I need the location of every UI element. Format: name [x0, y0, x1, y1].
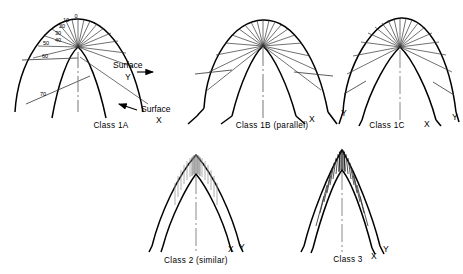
caption-class-3: Class 3 — [333, 255, 363, 264]
limb-inner-left-1c — [359, 120, 362, 126]
fold-classification-figure: 0 10 20 30 40 50 60 70 Surface Y Surface… — [0, 0, 463, 274]
label-x-3: X — [371, 251, 377, 261]
isogon-label-40: 40 — [55, 37, 61, 43]
panel-class-3: X Y Class 3 — [301, 150, 389, 264]
label-y-3: Y — [383, 244, 389, 254]
isogon-label-70: 70 — [40, 91, 46, 97]
inner-surface-curve-1c — [362, 47, 436, 120]
limb-inner-left-1b — [221, 116, 232, 124]
isogon-label-0: 0 — [74, 13, 77, 19]
panel-class-1b: X Y Class 1B (parallel) — [188, 20, 347, 130]
surface-y-label: Surface — [113, 60, 143, 70]
label-y-1c: Y — [452, 112, 458, 122]
isogon-label-60: 60 — [42, 53, 48, 59]
isogon-label-20: 20 — [59, 23, 65, 29]
limb-inner-left-2 — [161, 246, 163, 252]
panel-class-1a: 0 10 20 30 40 50 60 70 Surface Y Surface… — [15, 13, 171, 130]
panel-class-2: X Y Class 2 (similar) — [149, 155, 245, 265]
caption-class-2: Class 2 (similar) — [164, 256, 228, 265]
limb-outer-left-1b — [188, 116, 197, 124]
limb-outer-left-3 — [301, 246, 304, 252]
isogon-label-30: 30 — [55, 30, 61, 36]
surface-x-arrow — [119, 104, 137, 110]
label-y-2: Y — [239, 242, 245, 252]
isogon-long-left-1b — [195, 70, 232, 74]
limb-inner-right-1c — [436, 120, 441, 126]
surface-x-sublabel: X — [156, 115, 162, 125]
isogon-label-50: 50 — [43, 40, 49, 46]
caption-class-1b: Class 1B (parallel) — [236, 121, 309, 130]
isogon-70-line — [26, 76, 90, 104]
caption-class-1c: Class 1C — [369, 121, 405, 130]
label-x-2: X — [228, 244, 234, 254]
limb-outer-right-1b — [328, 112, 337, 124]
panel-class-1c: X Y Class 1C — [339, 18, 459, 130]
inner-surface-curve-1a — [52, 47, 106, 118]
outer-limb-left-1b — [197, 108, 204, 116]
limb-inner-left-3 — [311, 248, 313, 253]
surface-x-label: Surface — [141, 104, 171, 114]
caption-class-1a: Class 1A — [93, 121, 128, 130]
label-x-1b: X — [309, 114, 315, 124]
label-x-1c: X — [424, 119, 430, 129]
limb-outer-left-2 — [149, 246, 152, 252]
surface-y-sublabel: Y — [125, 72, 131, 82]
